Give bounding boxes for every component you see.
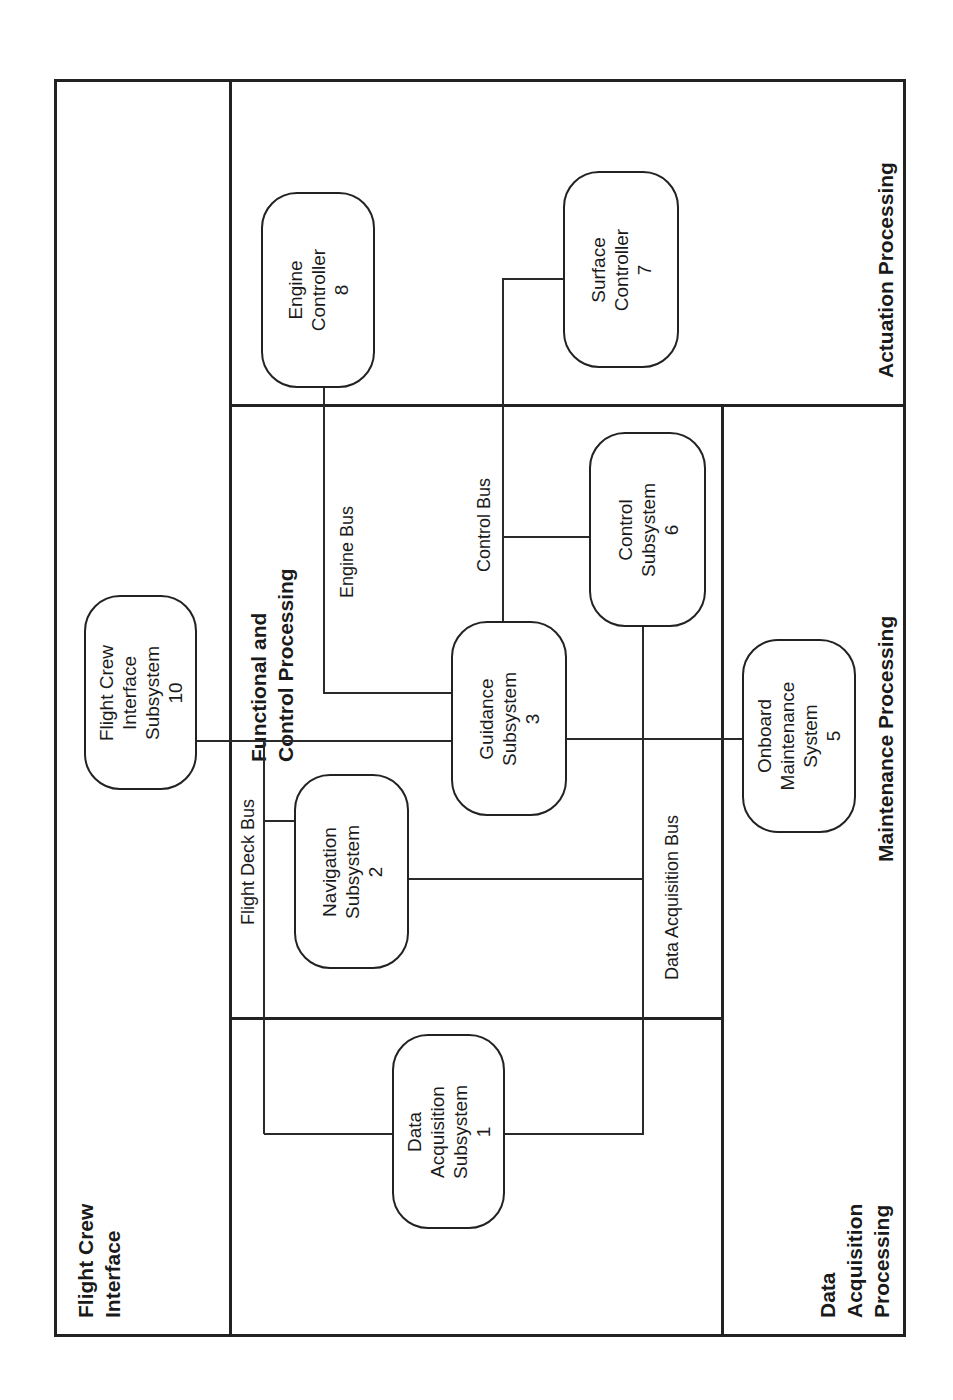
connector-data-acq-to-bus	[504, 1133, 644, 1135]
node-text: Guidance	[475, 672, 498, 766]
node-text: Subsystem	[449, 1085, 472, 1179]
node-guidance-subsystem[interactable]: Guidance Subsystem 3	[451, 621, 567, 816]
region-label-actuation: Actuation Processing	[872, 162, 899, 378]
region-label-line: Flight Crew	[72, 1204, 99, 1318]
node-number: 8	[330, 249, 353, 331]
node-engine-controller[interactable]: Engine Controller 8	[261, 192, 375, 388]
region-label-line: Functional and	[245, 568, 272, 762]
node-text: Onboard	[753, 682, 776, 791]
node-label: Flight Crew Interface Subsystem 10	[95, 644, 187, 740]
node-control-subsystem[interactable]: Control Subsystem 6	[589, 432, 706, 627]
connector-flight-deck-to-navigation	[264, 820, 296, 822]
node-label: Surface Controller 7	[587, 228, 656, 310]
node-label: Data Acquisition Subsystem 1	[403, 1085, 495, 1179]
node-text: Subsystem	[141, 644, 164, 740]
node-surface-controller[interactable]: Surface Controller 7	[563, 171, 679, 368]
node-text: Controller	[610, 228, 633, 310]
node-text: Navigation	[317, 825, 340, 919]
connector-guidance-to-maintenance	[565, 738, 743, 740]
divider-maintenance	[721, 405, 724, 1336]
region-label-flight-crew-interface: Flight Crew Interface	[72, 1204, 126, 1318]
node-number: 2	[363, 825, 386, 919]
connector-control-bus-to-control	[502, 536, 590, 538]
node-text: Flight Crew	[95, 644, 118, 740]
node-text: Surface	[587, 228, 610, 310]
region-label-functional-control: Functional and Control Processing	[245, 568, 299, 762]
node-number: 3	[521, 672, 544, 766]
node-label: Control Subsystem 6	[613, 483, 682, 577]
node-number: 1	[472, 1085, 495, 1179]
node-text: Subsystem	[498, 672, 521, 766]
region-label-line: Maintenance Processing	[872, 616, 899, 862]
node-flight-crew-interface-subsystem[interactable]: Flight Crew Interface Subsystem 10	[84, 595, 197, 790]
flight-deck-bus-line	[263, 740, 265, 1134]
node-label: Engine Controller 8	[284, 249, 353, 331]
node-text: Controller	[307, 249, 330, 331]
connector-engine-bus-to-guidance	[323, 692, 453, 694]
node-number: 6	[659, 483, 682, 577]
node-label: Guidance Subsystem 3	[475, 672, 544, 766]
bus-label-flight-deck: Flight Deck Bus	[238, 799, 259, 925]
region-label-data-acquisition: Data Acquisition Processing	[814, 1204, 895, 1318]
node-navigation-subsystem[interactable]: Navigation Subsystem 2	[294, 774, 409, 969]
node-label: Navigation Subsystem 2	[317, 825, 386, 919]
region-label-line: Acquisition	[841, 1204, 868, 1318]
node-text: Control	[613, 483, 636, 577]
data-acquisition-bus-line	[642, 620, 644, 1134]
control-bus-line	[502, 278, 504, 623]
region-label-line: Control Processing	[272, 568, 299, 762]
node-text: Maintenance	[776, 682, 799, 791]
node-text: Engine	[284, 249, 307, 331]
bus-label-data-acquisition: Data Acquisition Bus	[662, 815, 683, 980]
bus-label-control: Control Bus	[474, 478, 495, 572]
connector-flight-deck-to-data-acq	[264, 1133, 394, 1135]
divider-actuation	[230, 404, 905, 407]
node-number: 10	[164, 644, 187, 740]
node-text: Data	[403, 1085, 426, 1179]
region-label-line: Data	[814, 1204, 841, 1318]
region-label-maintenance: Maintenance Processing	[872, 616, 899, 862]
divider-flight-crew	[229, 80, 232, 1336]
node-text: Acquisition	[426, 1085, 449, 1179]
region-label-line: Actuation Processing	[872, 162, 899, 378]
region-label-line: Interface	[99, 1204, 126, 1318]
node-onboard-maintenance-system[interactable]: Onboard Maintenance System 5	[742, 639, 856, 833]
region-label-line: Processing	[868, 1204, 895, 1318]
engine-bus-line	[323, 386, 325, 692]
connector-control-bus-to-surface	[502, 278, 565, 280]
bus-label-engine: Engine Bus	[337, 506, 358, 598]
node-number: 5	[822, 682, 845, 791]
node-data-acquisition-subsystem[interactable]: Data Acquisition Subsystem 1	[392, 1034, 505, 1229]
node-text: Subsystem	[636, 483, 659, 577]
node-text: Interface	[118, 644, 141, 740]
node-label: Onboard Maintenance System 5	[753, 682, 845, 791]
connector-flight-crew-to-guidance	[196, 740, 452, 742]
node-text: System	[799, 682, 822, 791]
node-text: Subsystem	[340, 825, 363, 919]
node-number: 7	[633, 228, 656, 310]
divider-data-acquisition	[230, 1017, 723, 1020]
connector-navigation-to-data-acq-bus	[408, 878, 643, 880]
